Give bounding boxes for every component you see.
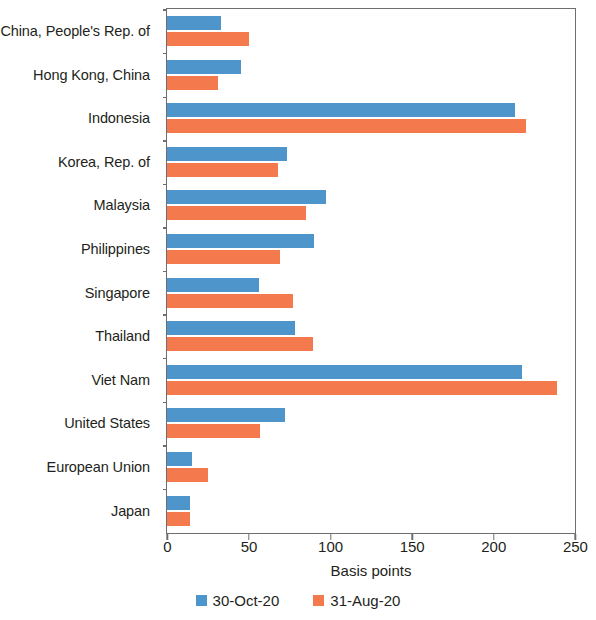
- bar-orange: [167, 468, 208, 482]
- bar-row: [167, 271, 575, 315]
- y-axis-label: Viet Nam: [0, 358, 158, 402]
- y-axis-label: Singapore: [0, 271, 158, 315]
- x-axis-tick-label: 100: [318, 538, 343, 555]
- bar-row: [167, 358, 575, 402]
- y-axis-label: European Union: [0, 445, 158, 489]
- y-axis-tick: [163, 271, 167, 272]
- bar-row: [167, 140, 575, 184]
- bar-blue: [167, 321, 294, 335]
- y-axis-tick: [163, 314, 167, 315]
- y-axis-label: Thailand: [0, 314, 158, 358]
- bar-orange: [167, 206, 306, 220]
- bar-row: [167, 53, 575, 97]
- bar-orange: [167, 163, 278, 177]
- y-axis-tick: [163, 9, 167, 10]
- bar-orange: [167, 294, 293, 308]
- y-axis-tick: [163, 445, 167, 446]
- y-axis-tick: [163, 53, 167, 54]
- bar-blue: [167, 147, 286, 161]
- legend-item[interactable]: 30-Oct-20: [196, 592, 280, 609]
- y-axis-tick: [163, 140, 167, 141]
- bar-blue: [167, 278, 258, 292]
- y-axis-label: Hong Kong, China: [0, 53, 158, 97]
- y-axis-labels: China, People's Rep. ofHong Kong, ChinaI…: [0, 9, 158, 532]
- bar-blue: [167, 103, 515, 117]
- bar-blue: [167, 190, 325, 204]
- bar-orange: [167, 337, 312, 351]
- x-axis-tick-label: 150: [400, 538, 425, 555]
- y-axis-label: Japan: [0, 489, 158, 533]
- y-axis-label: China, People's Rep. of: [0, 9, 158, 53]
- x-axis-tick-label: 50: [241, 538, 258, 555]
- y-axis-tick: [163, 358, 167, 359]
- y-axis-tick: [163, 489, 167, 490]
- y-axis-label: Malaysia: [0, 184, 158, 228]
- legend-swatch-icon: [313, 595, 324, 606]
- bar-chart: China, People's Rep. ofHong Kong, ChinaI…: [0, 0, 596, 620]
- y-axis-label: Philippines: [0, 227, 158, 271]
- bar-blue: [167, 365, 521, 379]
- bar-orange: [167, 250, 280, 264]
- x-axis-tick-label: 250: [563, 538, 588, 555]
- legend-label: 30-Oct-20: [213, 592, 280, 609]
- bar-orange: [167, 119, 526, 133]
- bar-row: [167, 314, 575, 358]
- bar-row: [167, 489, 575, 533]
- legend-item[interactable]: 31-Aug-20: [313, 592, 400, 609]
- x-axis-tick-label: 200: [481, 538, 506, 555]
- bar-orange: [167, 381, 557, 395]
- bar-orange: [167, 76, 218, 90]
- bar-orange: [167, 512, 190, 526]
- chart-legend: 30-Oct-2031-Aug-20: [0, 592, 596, 609]
- y-axis-label: Indonesia: [0, 97, 158, 141]
- bar-row: [167, 184, 575, 228]
- legend-label: 31-Aug-20: [330, 592, 400, 609]
- legend-swatch-icon: [196, 595, 207, 606]
- bar-rows: [167, 9, 575, 532]
- bar-blue: [167, 16, 221, 30]
- x-axis-tick-labels: 050100150200250: [166, 538, 576, 560]
- bar-row: [167, 227, 575, 271]
- y-axis-label: Korea, Rep. of: [0, 140, 158, 184]
- bar-row: [167, 402, 575, 446]
- x-axis-tick-label: 0: [163, 538, 171, 555]
- y-axis-tick: [163, 227, 167, 228]
- x-axis-title: Basis points: [166, 562, 576, 579]
- y-axis-label: United States: [0, 402, 158, 446]
- y-axis-tick: [163, 402, 167, 403]
- bar-orange: [167, 424, 260, 438]
- bar-row: [167, 445, 575, 489]
- bar-blue: [167, 60, 240, 74]
- bar-blue: [167, 408, 285, 422]
- bar-orange: [167, 32, 249, 46]
- bar-row: [167, 97, 575, 141]
- y-axis-tick: [163, 97, 167, 98]
- y-axis-tick: [163, 184, 167, 185]
- bar-blue: [167, 496, 190, 510]
- bar-blue: [167, 234, 314, 248]
- bar-row: [167, 9, 575, 53]
- bar-blue: [167, 452, 191, 466]
